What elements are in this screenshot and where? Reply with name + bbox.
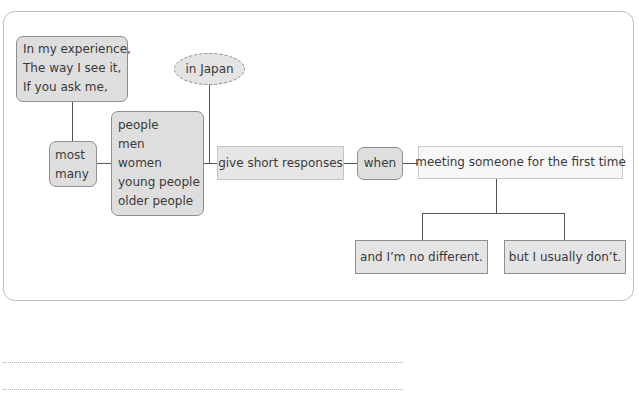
opinion-phrase: If you ask me, [23, 78, 121, 97]
connector-quantifier-to-subject [96, 163, 111, 164]
subject: people [118, 116, 197, 135]
connector-opinion-to-quantifier [72, 101, 73, 142]
connector-branch-left [422, 213, 423, 240]
ending-box-disagree: but I usually don’t. [504, 240, 626, 274]
place-oval: in Japan [174, 53, 245, 85]
answer-line-2[interactable] [3, 389, 403, 390]
answer-line-1[interactable] [3, 362, 403, 363]
quantifiers-box: most many [49, 141, 97, 187]
subject: older people [118, 192, 197, 211]
connector-branch [422, 213, 565, 214]
subject: young people [118, 173, 197, 192]
quantifier: most [55, 146, 91, 165]
subjects-box: people men women young people older peop… [111, 111, 204, 216]
subject: men [118, 135, 197, 154]
situation-box: meeting someone for the first time [418, 146, 623, 179]
situation-label: meeting someone for the first time [415, 153, 626, 172]
connector-subject-to-verb [203, 163, 217, 164]
ending-label: and I’m no different. [360, 248, 483, 267]
verb-phrase-label: give short responses [218, 154, 343, 173]
opinion-phrases-box: In my experience, The way I see it, If y… [16, 36, 128, 102]
connector-verb-to-when [343, 163, 357, 164]
opinion-phrase: In my experience, [23, 40, 121, 59]
subject: women [118, 154, 197, 173]
ending-box-agree: and I’m no different. [355, 240, 488, 274]
verb-phrase-box: give short responses [217, 146, 344, 180]
place-label: in Japan [185, 60, 233, 79]
connector-situation-down [496, 178, 497, 213]
connector-word-label: when [364, 154, 396, 173]
connector-branch-right [564, 213, 565, 240]
quantifier: many [55, 165, 91, 184]
connector-word-box: when [357, 147, 403, 180]
connector-place-to-verb [209, 84, 210, 164]
ending-label: but I usually don’t. [509, 248, 621, 267]
opinion-phrase: The way I see it, [23, 59, 121, 78]
